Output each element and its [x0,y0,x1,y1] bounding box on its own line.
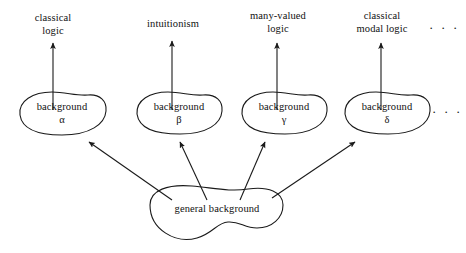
label-intuitionism: intuitionism [127,18,219,31]
diagram-canvas: classical logic intuitionism many-valued… [0,0,466,253]
label-classical-modal-logic: classical modal logic [336,10,428,35]
arrow-general-to-delta [272,142,355,198]
arrow-general-to-alpha [89,142,172,200]
label-background-beta: background β [134,101,224,126]
label-many-valued-logic: many-valued logic [235,10,321,35]
label-classical-logic: classical logic [13,12,93,37]
ellipsis-top-right: · · · [429,20,460,36]
label-background-gamma: background γ [239,101,329,126]
label-background-alpha: background α [17,101,107,126]
arrow-general-to-gamma [240,142,265,200]
label-background-delta: background δ [342,101,432,126]
label-general-background: general background [155,203,279,216]
ellipsis-blob-row: · · · [432,104,463,120]
arrow-general-to-beta [180,142,207,200]
